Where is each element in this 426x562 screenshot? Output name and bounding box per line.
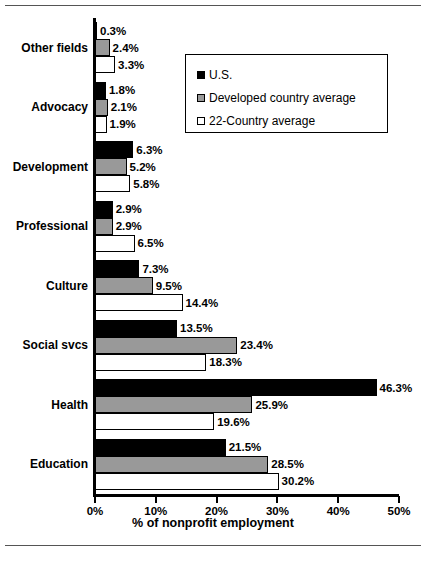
bar-row: 2.9% [95,201,399,218]
bar-value-label: 19.6% [217,416,250,428]
bar-value-label: 2.9% [116,203,142,215]
bar[interactable]: 23.4% [95,337,237,354]
bar-row: 19.6% [95,413,399,430]
bar-value-label: 2.1% [111,101,137,113]
bar-value-label: 23.4% [240,339,273,351]
bar[interactable]: 25.9% [95,396,252,413]
legend-swatch-icon [197,94,205,102]
bar-value-label: 5.8% [133,178,159,190]
x-axis-tick [94,496,96,503]
legend-swatch-icon [197,71,205,79]
bar-row: 18.3% [95,354,399,371]
bar-value-label: 25.9% [255,399,288,411]
bar-row: 6.3% [95,141,399,158]
bar-row: 30.2% [95,473,399,490]
legend-swatch-icon [197,117,205,125]
bar-value-label: 1.8% [109,84,135,96]
bar[interactable]: 5.8% [95,175,130,192]
bar-row: 6.5% [95,235,399,252]
legend-item[interactable]: 22-Country average [197,110,387,131]
category-label: Social svcs [23,338,88,352]
bar-value-label: 0.3% [100,25,126,37]
bar-value-label: 21.5% [229,441,262,453]
bar-value-label: 5.2% [130,161,156,173]
bar[interactable]: 1.9% [95,116,107,133]
bar[interactable]: 9.5% [95,277,153,294]
category-label: Culture [46,279,88,293]
bar-value-label: 13.5% [180,322,213,334]
bar-value-label: 28.5% [271,458,304,470]
x-axis-title: % of nonprofit employment [0,516,426,530]
category-label: Development [13,160,88,174]
bar-row: 23.4% [95,337,399,354]
bar[interactable]: 0.3% [95,22,97,39]
legend-label: 22-Country average [209,114,315,128]
bar-row: 28.5% [95,456,399,473]
bottom-divider-rule [5,545,421,546]
chart-figure: 0%10%20%30%40%50% Other fields0.3%2.4%3.… [0,0,426,562]
bar-value-label: 9.5% [156,280,182,292]
bar[interactable]: 5.2% [95,158,127,175]
bar-row: 5.2% [95,158,399,175]
bar-group: Social svcs13.5%23.4%18.3% [95,316,399,376]
bar-row: 21.5% [95,439,399,456]
bar[interactable]: 46.3% [95,379,377,396]
x-axis-tick [216,496,218,503]
category-label: Other fields [21,41,88,55]
bar-row: 46.3% [95,379,399,396]
x-axis-tick [276,496,278,503]
bar-value-label: 2.4% [113,42,139,54]
bar[interactable]: 6.3% [95,141,133,158]
bar[interactable]: 18.3% [95,354,206,371]
bar-row: 13.5% [95,320,399,337]
bar-group: Education21.5%28.5%30.2% [95,435,399,495]
bar[interactable]: 3.3% [95,56,115,73]
bar-value-label: 6.3% [136,144,162,156]
bar[interactable]: 6.5% [95,235,135,252]
bar[interactable]: 2.1% [95,99,108,116]
bar-value-label: 1.9% [110,118,136,130]
category-label: Advocacy [31,100,88,114]
bar[interactable]: 2.9% [95,218,113,235]
bar[interactable]: 21.5% [95,439,226,456]
bar[interactable]: 28.5% [95,456,268,473]
bar-value-label: 2.9% [116,220,142,232]
bar-row: 0.3% [95,22,399,39]
x-axis-tick [337,496,339,503]
bar-row: 25.9% [95,396,399,413]
legend-item[interactable]: U.S. [197,64,387,85]
legend-label: U.S. [209,68,232,82]
category-label: Professional [16,219,88,233]
bar[interactable]: 2.9% [95,201,113,218]
bar-row: 7.3% [95,260,399,277]
bar-group: Development6.3%5.2%5.8% [95,137,399,197]
bar[interactable]: 14.4% [95,294,183,311]
bar-value-label: 6.5% [138,237,164,249]
top-divider-rule [5,5,421,6]
bar-value-label: 3.3% [118,59,144,71]
bar[interactable]: 13.5% [95,320,177,337]
bar-value-label: 30.2% [282,475,315,487]
bar-value-label: 18.3% [209,356,242,368]
bar-group: Professional2.9%2.9%6.5% [95,197,399,257]
bar[interactable]: 1.8% [95,82,106,99]
x-axis-tick [398,496,400,503]
x-axis-tick [155,496,157,503]
bar-group: Health46.3%25.9%19.6% [95,375,399,435]
bar[interactable]: 7.3% [95,260,139,277]
bar-value-label: 7.3% [142,263,168,275]
bar[interactable]: 19.6% [95,413,214,430]
legend-label: Developed country average [209,91,356,105]
chart-legend: U.S.Developed country average22-Country … [185,54,388,133]
bar-value-label: 14.4% [186,297,219,309]
legend-item[interactable]: Developed country average [197,87,387,108]
bar-row: 14.4% [95,294,399,311]
bar[interactable]: 30.2% [95,473,279,490]
bar-row: 5.8% [95,175,399,192]
bar[interactable]: 2.4% [95,39,110,56]
bar-row: 2.9% [95,218,399,235]
bar-value-label: 46.3% [380,382,413,394]
category-label: Education [30,457,88,471]
category-label: Health [51,398,88,412]
bar-group: Culture7.3%9.5%14.4% [95,256,399,316]
